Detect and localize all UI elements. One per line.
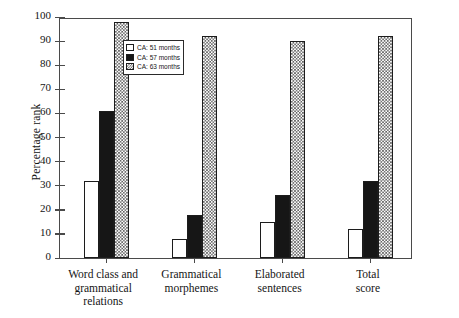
bar [290, 41, 305, 258]
bar [363, 181, 378, 258]
bar-chart: Percentage rank 0102030405060708090100 C… [0, 0, 459, 318]
legend-label: CA: 51 months [137, 44, 180, 51]
plot-area: 0102030405060708090100 CA: 51 monthsCA: … [59, 18, 412, 259]
y-tick-mark-inner [60, 209, 65, 210]
bar [260, 222, 275, 258]
y-tick-mark-inner [60, 113, 65, 114]
legend-item: CA: 51 months [126, 43, 180, 52]
x-axis-label-line: score [308, 282, 428, 296]
y-tick-label: 50 [40, 130, 51, 142]
x-tick-mark [370, 258, 371, 263]
y-tick-mark-inner [60, 41, 65, 42]
bar [99, 111, 114, 258]
bar [378, 36, 393, 258]
legend-label: CA: 63 months [137, 63, 180, 70]
x-axis-label: Totalscore [308, 268, 428, 295]
x-tick-mark [194, 258, 195, 263]
bar [275, 195, 290, 258]
x-axis-label-line: Total [308, 268, 428, 282]
y-tick-mark-inner [60, 89, 65, 90]
y-tick-label: 0 [46, 250, 52, 262]
bar-group [84, 19, 129, 258]
legend-label: CA: 57 months [137, 54, 180, 61]
y-tick-mark-inner [60, 258, 65, 259]
y-tick-label: 100 [35, 9, 52, 21]
bar [187, 215, 202, 258]
y-tick-mark-inner [60, 185, 65, 186]
legend-swatch [126, 54, 134, 61]
bar [84, 181, 99, 258]
bar-group [348, 19, 393, 258]
y-tick-mark-inner [60, 233, 65, 234]
bar [202, 36, 217, 258]
x-tick-mark [106, 258, 107, 263]
y-tick-label: 30 [40, 178, 51, 190]
y-tick-label: 10 [40, 226, 51, 238]
y-tick-label: 40 [40, 154, 51, 166]
bar [172, 239, 187, 258]
y-tick-mark-inner [60, 137, 65, 138]
y-tick-mark-inner [60, 17, 65, 18]
y-tick-label: 20 [40, 202, 51, 214]
x-axis-label-line: relations [43, 295, 163, 309]
y-tick-mark-inner [60, 161, 65, 162]
legend-swatch [126, 63, 134, 70]
chart-legend: CA: 51 monthsCA: 57 monthsCA: 63 months [123, 40, 184, 75]
y-tick-label: 90 [40, 33, 51, 45]
legend-swatch [126, 44, 134, 51]
y-tick-mark-inner [60, 65, 65, 66]
y-tick-label: 80 [40, 57, 51, 69]
bar [348, 229, 363, 258]
y-tick-label: 60 [40, 105, 51, 117]
legend-item: CA: 63 months [126, 62, 180, 71]
y-tick-label: 70 [40, 81, 51, 93]
x-tick-mark [282, 258, 283, 263]
bar-group [260, 19, 305, 258]
legend-item: CA: 57 months [126, 53, 180, 62]
